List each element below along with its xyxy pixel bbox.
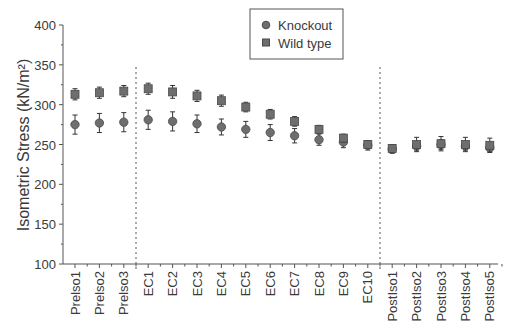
- data-point-square: [144, 83, 152, 94]
- x-tick-label: EC10: [360, 271, 375, 304]
- y-tick-label: 250: [34, 138, 56, 153]
- data-point-circle: [266, 125, 274, 141]
- y-tick-label: 150: [34, 217, 56, 232]
- data-point-circle: [290, 129, 298, 143]
- x-tick-label: PostIso4: [458, 271, 473, 322]
- x-tick-label: PostIso1: [385, 271, 400, 322]
- data-point-square: [266, 109, 274, 119]
- x-tick-label: PostIso2: [409, 271, 424, 322]
- data-point-circle: [95, 113, 103, 132]
- x-tick-label: EC6: [263, 271, 278, 296]
- y-tick-label: 200: [34, 177, 56, 192]
- chart: 100150200250300350400 Prelso1Prelso2Prel…: [0, 0, 511, 329]
- x-tick-label: Prelso1: [68, 271, 83, 315]
- data-point-square: [217, 95, 225, 106]
- data-points: [71, 83, 494, 153]
- legend: Knockout Wild type: [250, 9, 343, 59]
- x-tick-label: Prelso3: [116, 271, 131, 315]
- y-tick-label: 400: [34, 18, 56, 33]
- data-point-square: [169, 86, 177, 99]
- y-tick-label: 350: [34, 58, 56, 73]
- data-point-square: [120, 86, 128, 97]
- data-point-square: [95, 87, 103, 98]
- x-tick-label: EC5: [238, 271, 253, 296]
- data-point-square: [339, 134, 347, 142]
- x-tick-label: PostIso3: [434, 271, 449, 322]
- data-point-circle: [193, 115, 201, 133]
- data-point-square: [364, 141, 372, 149]
- x-tick-label: EC9: [336, 271, 351, 296]
- x-tick-label: Prelso2: [92, 271, 107, 315]
- data-point-circle: [242, 121, 250, 137]
- legend-circle-icon: [262, 21, 270, 29]
- x-tick-label: EC7: [287, 271, 302, 296]
- data-point-square: [291, 117, 299, 127]
- x-tick-label: EC4: [214, 271, 229, 296]
- data-point-circle: [315, 134, 323, 145]
- data-point-circle: [217, 119, 225, 135]
- x-tick-label: EC1: [141, 271, 156, 296]
- y-tick-label: 100: [34, 257, 56, 272]
- y-tick-label: 300: [34, 98, 56, 113]
- data-point-circle: [168, 112, 176, 131]
- data-point-square: [242, 102, 250, 112]
- legend-square-icon: [263, 39, 270, 46]
- data-point-square: [437, 137, 445, 151]
- x-tick-label: EC3: [190, 271, 205, 296]
- data-point-square: [193, 90, 201, 101]
- x-tick-label: EC8: [312, 271, 327, 296]
- legend-label-wild-type: Wild type: [278, 36, 331, 51]
- data-point-circle: [144, 110, 152, 129]
- legend-label-knockout: Knockout: [278, 18, 333, 33]
- data-point-square: [315, 125, 323, 133]
- x-tick-label: PostIso5: [482, 271, 497, 322]
- data-point-square: [71, 89, 79, 100]
- y-axis-label: Isometric Stress (kN/m²): [15, 59, 32, 231]
- data-point-circle: [120, 113, 128, 132]
- data-point-square: [388, 144, 396, 152]
- data-point-circle: [71, 115, 79, 134]
- x-axis: Prelso1Prelso2Prelso3EC1EC2EC3EC4EC5EC6E…: [63, 264, 502, 322]
- x-tick-label: EC2: [165, 271, 180, 296]
- y-axis: 100150200250300350400: [34, 18, 63, 272]
